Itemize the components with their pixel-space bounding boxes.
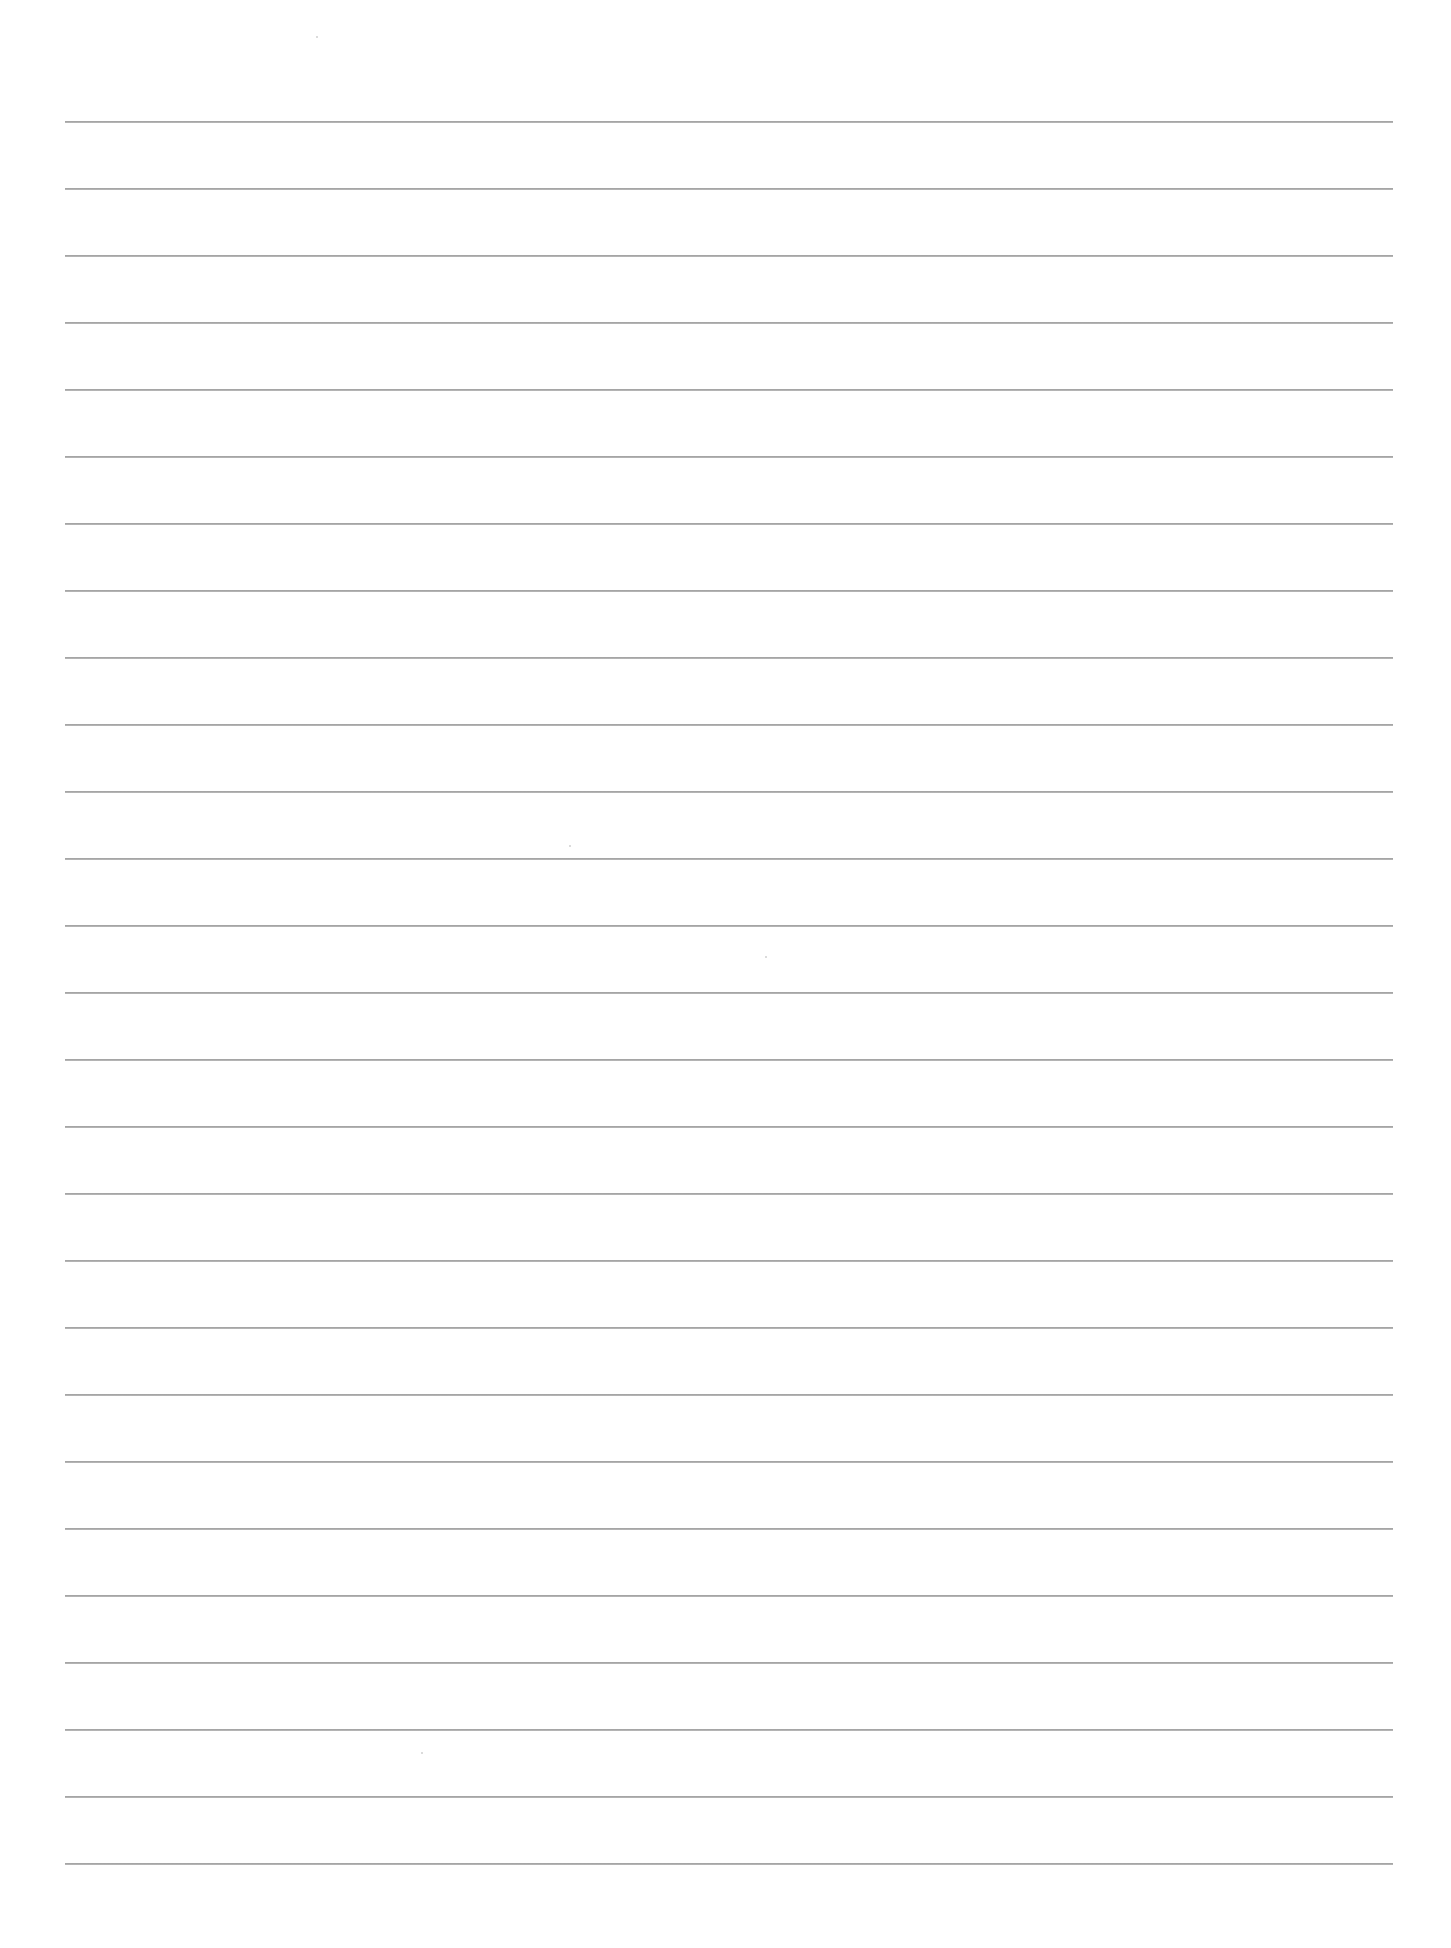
ruled-line <box>65 1126 1393 1128</box>
ruled-line <box>65 657 1393 659</box>
ruled-line <box>65 389 1393 391</box>
ruled-line <box>65 1193 1393 1195</box>
ruled-line <box>65 1528 1393 1530</box>
ruled-line <box>65 1595 1393 1597</box>
ruled-line <box>65 1461 1393 1463</box>
ruled-line <box>65 255 1393 257</box>
ruled-line <box>65 1327 1393 1329</box>
ruled-line <box>65 1059 1393 1061</box>
ruled-line <box>65 1729 1393 1731</box>
ruled-line <box>65 1796 1393 1798</box>
ruled-line <box>65 456 1393 458</box>
ruled-line <box>65 1394 1393 1396</box>
ruled-line <box>65 724 1393 726</box>
ruled-line <box>65 858 1393 860</box>
ruled-line <box>65 322 1393 324</box>
ruled-line <box>65 1662 1393 1664</box>
ruled-line <box>65 1260 1393 1262</box>
ruled-line <box>65 791 1393 793</box>
ruled-line <box>65 992 1393 994</box>
ruled-line <box>65 188 1393 190</box>
ruled-line <box>65 590 1393 592</box>
ruled-page <box>0 0 1451 1948</box>
ruled-line <box>65 523 1393 525</box>
paper-speck <box>765 956 767 958</box>
ruled-line <box>65 1863 1393 1865</box>
paper-speck <box>421 1752 423 1754</box>
paper-speck <box>569 845 571 847</box>
paper-speck <box>316 36 318 38</box>
ruled-line <box>65 121 1393 123</box>
ruled-line <box>65 925 1393 927</box>
